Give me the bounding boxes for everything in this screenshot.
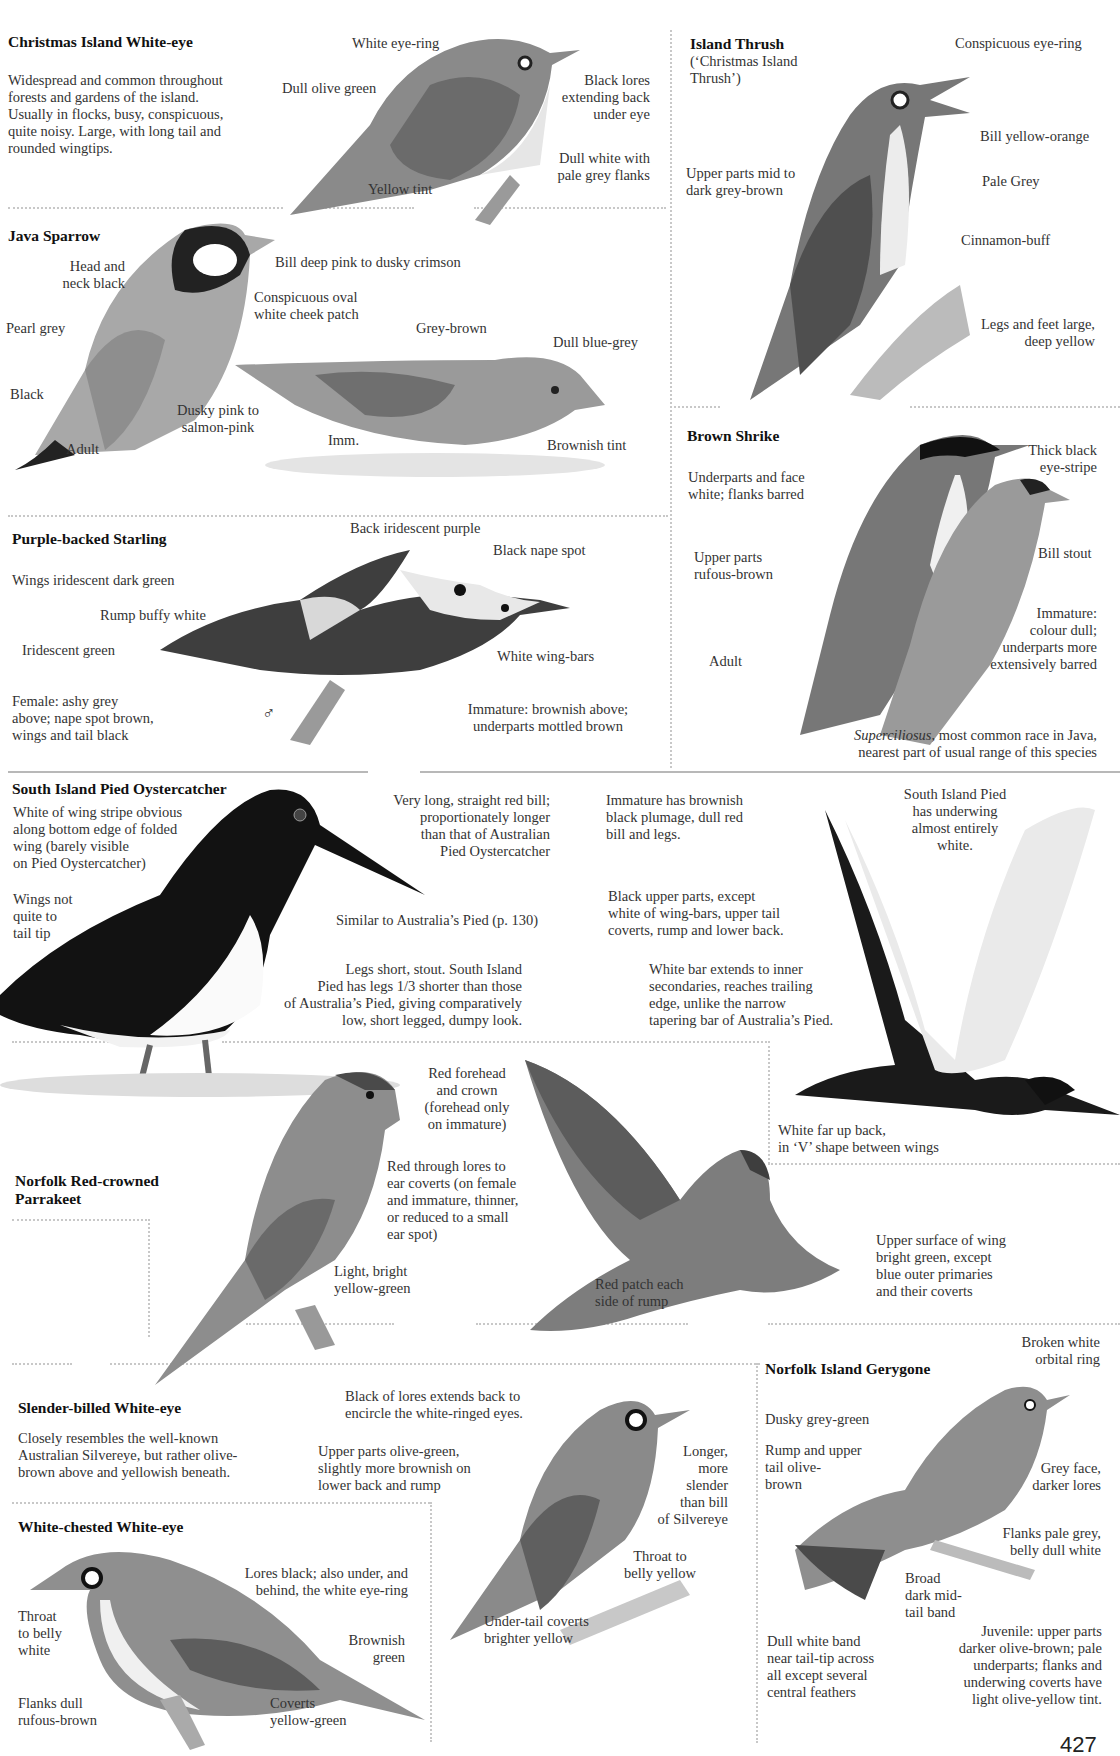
- divider: [756, 1363, 758, 1743]
- text-line: in ‘V’ shape between wings: [778, 1139, 939, 1156]
- text-line: Red forehead: [412, 1065, 522, 1082]
- text-line: Upper parts: [694, 549, 773, 566]
- annotation: Conspicuous oval white cheek patch: [254, 289, 359, 323]
- annotation: Under-tail coverts brighter yellow: [484, 1613, 589, 1647]
- text-line: Broken white: [990, 1334, 1100, 1351]
- text-line: deep yellow: [940, 333, 1095, 350]
- text-line: nearest part of usual range of this spec…: [800, 744, 1097, 761]
- text-line: Usually in flocks, busy, conspicuous,: [8, 106, 223, 123]
- text-line: yellow-green: [270, 1712, 347, 1729]
- text-line: on Pied Oystercatcher): [13, 855, 182, 872]
- text-line: Flanks dull: [18, 1695, 97, 1712]
- text-line: (‘Christmas Island: [690, 53, 798, 70]
- species-subtitle: (‘Christmas Island Thrush’): [690, 53, 798, 87]
- text-line: than bill: [640, 1494, 728, 1511]
- text-line: quite to: [13, 908, 72, 925]
- annotation: Longer, more slender than bill of Silver…: [640, 1443, 728, 1529]
- species-title: Slender-billed White-eye: [18, 1399, 181, 1417]
- text-line: central feathers: [767, 1684, 874, 1701]
- text-line: or reduced to a small: [387, 1209, 519, 1226]
- divider: [12, 1219, 147, 1221]
- divider: [670, 406, 720, 408]
- text-line: White of wing stripe obvious: [13, 804, 182, 821]
- annotation: White of wing stripe obvious along botto…: [13, 804, 182, 872]
- text-line: green: [320, 1649, 405, 1666]
- text-line: rufous-brown: [18, 1712, 97, 1729]
- text-line: light olive-yellow tint.: [930, 1691, 1102, 1708]
- annotation: Underparts and face white; flanks barred: [688, 469, 805, 503]
- text-line: Thrush’): [690, 70, 798, 87]
- text-line: Black of lores extends back to: [345, 1388, 523, 1405]
- annotation: White bar extends to inner secondaries, …: [649, 961, 833, 1029]
- annotation: Rump buffy white: [100, 607, 206, 624]
- annotation: Immature: colour dull; underparts more e…: [960, 605, 1097, 673]
- text-line: Superciliosus, most common race in Java,: [800, 727, 1097, 744]
- annotation: Juvenile: upper parts darker olive-brown…: [930, 1623, 1102, 1709]
- divider: [910, 406, 1120, 408]
- text-line: ear spot): [387, 1226, 519, 1243]
- text-line: underparts more: [960, 639, 1097, 656]
- text-line: lower back and rump: [318, 1477, 471, 1494]
- annotation: Conspicuous eye-ring: [955, 35, 1082, 52]
- annotation: Bill deep pink to dusky crimson: [275, 254, 461, 271]
- text-line: Rump and upper: [765, 1442, 862, 1459]
- annotation: White eye-ring: [352, 35, 439, 52]
- annotation: Immature: brownish above; underparts mot…: [448, 701, 648, 735]
- text-line: all except several: [767, 1667, 874, 1684]
- annotation: Bill yellow-orange: [980, 128, 1089, 145]
- divider: [8, 515, 668, 517]
- text-line: Flanks pale grey,: [970, 1525, 1101, 1542]
- java-sparrow-immature-illustration: [235, 345, 605, 475]
- italic-term: Superciliosus: [854, 727, 932, 743]
- annotation: Grey face, darker lores: [1000, 1460, 1101, 1494]
- text-line: orbital ring: [990, 1351, 1100, 1368]
- text-line: brighter yellow: [484, 1630, 589, 1647]
- annotation: Brownish green: [320, 1632, 405, 1666]
- text-line: Dull white with: [520, 150, 650, 167]
- annotation: Bill stout: [1038, 545, 1092, 562]
- text-line: slender: [640, 1477, 728, 1494]
- text-line: Black upper parts, except: [608, 888, 784, 905]
- male-symbol-icon: ♂: [262, 703, 276, 724]
- text-line: Thick black: [990, 442, 1097, 459]
- text-line: and their coverts: [876, 1283, 1006, 1300]
- annotation: Rump and upper tail olive- brown: [765, 1442, 862, 1493]
- text-line: brown: [765, 1476, 862, 1493]
- text-line: to belly: [18, 1625, 62, 1642]
- text-line: along bottom edge of folded: [13, 821, 182, 838]
- annotation: White far up back, in ‘V’ shape between …: [778, 1122, 939, 1156]
- text-line: South Island Pied: [880, 786, 1030, 803]
- text-line: Legs and feet large,: [940, 316, 1095, 333]
- text-line: Red through lores to: [387, 1158, 519, 1175]
- text-line: tail band: [905, 1604, 962, 1621]
- text-line: underwing coverts have: [930, 1674, 1102, 1691]
- text-line: black plumage, dull red: [606, 809, 743, 826]
- text-line: extending back: [530, 89, 650, 106]
- text-line: Immature has brownish: [606, 792, 743, 809]
- annotation: Legs and feet large, deep yellow: [940, 316, 1095, 350]
- annotation: Dull white with pale grey flanks: [520, 150, 650, 184]
- text-line: of Australia’s Pied, giving comparativel…: [250, 995, 522, 1012]
- text-line: of Silvereye: [640, 1511, 728, 1528]
- text-line: under eye: [530, 106, 650, 123]
- text-line: tapering bar of Australia’s Pied.: [649, 1012, 833, 1029]
- text-line: Juvenile: upper parts: [930, 1623, 1102, 1640]
- text-line: underparts mottled brown: [448, 718, 648, 735]
- annotation: Upper parts mid to dark grey-brown: [686, 165, 795, 199]
- text-line: bill and legs.: [606, 826, 743, 843]
- text-line: behind, the white eye-ring: [210, 1582, 408, 1599]
- text-line: coverts, rump and lower back.: [608, 922, 784, 939]
- divider: [12, 1363, 72, 1365]
- annotation: Iridescent green: [22, 642, 115, 659]
- parrakeet-perched-illustration: [135, 1060, 415, 1390]
- divider: [12, 1502, 430, 1504]
- page-number: 427: [1060, 1732, 1097, 1756]
- annotation: Back iridescent purple: [350, 520, 480, 537]
- species-description: Widespread and common throughout forests…: [8, 72, 223, 158]
- text-line: Underparts and face: [688, 469, 805, 486]
- annotation: Pearl grey: [6, 320, 65, 337]
- text-line: Lores black; also under, and: [210, 1565, 408, 1582]
- annotation: Red forehead and crown (forehead only on…: [412, 1065, 522, 1133]
- text-line: underparts; flanks and: [930, 1657, 1102, 1674]
- annotation: Dull blue-grey: [553, 334, 638, 351]
